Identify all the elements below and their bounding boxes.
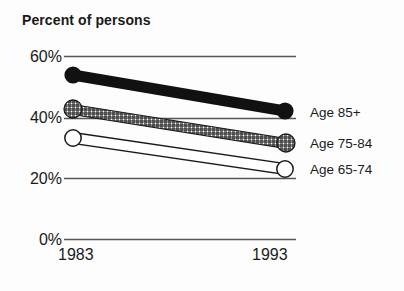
data-point-marker — [277, 161, 293, 177]
plot-area — [0, 0, 404, 291]
data-point-marker — [64, 66, 81, 83]
data-point-marker — [64, 100, 82, 118]
data-point-marker — [276, 102, 293, 119]
chart-container: Percent of persons 60% 40% 20% 0% 1983 1… — [0, 0, 404, 291]
data-point-marker — [277, 134, 295, 152]
series-line — [73, 75, 285, 111]
data-point-marker — [65, 130, 81, 146]
